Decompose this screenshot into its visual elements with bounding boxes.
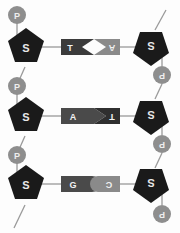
dna-diagram-svg: T A A T G C S S S S S S P P (0, 0, 180, 233)
phosphate-left-3-shape[interactable] (8, 146, 26, 164)
phosphate-right-3-shape[interactable] (153, 205, 171, 223)
dna-diagram-canvas: T A A T G C S S S S S S P P (0, 0, 180, 233)
base-pair-2[interactable]: A T (61, 108, 120, 124)
phosphate-left-1-shape[interactable] (8, 6, 26, 24)
phosphate-left-2-shape[interactable] (8, 77, 26, 95)
phosphate-right-1-shape[interactable] (153, 66, 171, 84)
base-pair-3[interactable]: G C (61, 176, 120, 192)
base-right-3-shape[interactable] (90, 176, 120, 192)
phosphate-right-2-shape[interactable] (153, 135, 171, 153)
